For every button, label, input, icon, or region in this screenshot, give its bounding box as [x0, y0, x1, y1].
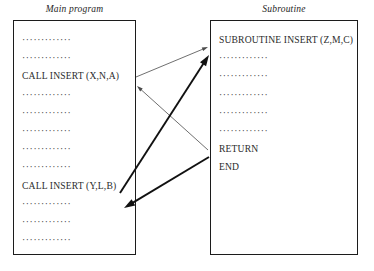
code-statement-line: CALL INSERT (X,N,A)	[22, 70, 119, 81]
arrow-call-1-to-subroutine	[136, 47, 208, 77]
code-ellipsis-line: ·············	[219, 70, 268, 81]
arrow-shaft	[132, 157, 209, 203]
arrow-head	[202, 47, 208, 51]
arrow-head	[200, 55, 209, 66]
arrow-return-1-to-call-1	[137, 86, 208, 150]
code-ellipsis-line: ·············	[22, 198, 71, 209]
main-program-box: ··························CALL INSERT (X…	[13, 20, 136, 255]
code-ellipsis-line: ·············	[219, 89, 268, 100]
code-ellipsis-line: ·············	[22, 161, 71, 172]
code-ellipsis-line: ·············	[22, 125, 71, 136]
code-ellipsis-line: ·············	[22, 52, 71, 63]
code-statement-line: END	[219, 161, 239, 172]
arrow-return-2-to-call-2	[124, 157, 209, 208]
arrow-shaft	[140, 89, 208, 150]
subroutine-box: SUBROUTINE INSERT (Z,M,C)···············…	[210, 20, 358, 255]
arrow-shaft	[136, 49, 204, 77]
main-program-caption: Main program	[13, 4, 136, 14]
code-statement-line: CALL INSERT (Y,L,B)	[22, 180, 116, 191]
code-ellipsis-line: ·············	[22, 216, 71, 227]
code-ellipsis-line: ·············	[219, 107, 268, 118]
code-ellipsis-line: ·············	[22, 107, 71, 118]
code-ellipsis-line: ·············	[219, 52, 268, 63]
code-statement-line: SUBROUTINE INSERT (Z,M,C)	[219, 34, 353, 45]
code-ellipsis-line: ·············	[22, 34, 71, 45]
code-ellipsis-line: ·············	[22, 89, 71, 100]
subroutine-flow-figure: Main program Subroutine ················…	[0, 0, 374, 271]
subroutine-caption: Subroutine	[210, 4, 358, 14]
code-ellipsis-line: ·············	[22, 143, 71, 154]
code-statement-line: RETURN	[219, 143, 258, 154]
code-ellipsis-line: ·············	[22, 234, 71, 245]
arrow-head	[137, 86, 143, 91]
code-ellipsis-line: ·············	[219, 125, 268, 136]
